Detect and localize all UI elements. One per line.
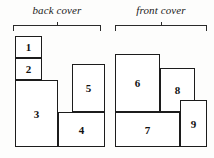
cover-layout-figure: back coverfront cover123546879 [0, 0, 214, 158]
back-cover-bracket-tick-right [100, 25, 101, 31]
back-cover-bracket-tick-mid [57, 22, 58, 26]
front-cover-bracket-tick-left [115, 25, 116, 31]
box-9-number: 9 [181, 118, 206, 130]
box-5: 5 [72, 64, 105, 112]
box-7-number: 7 [116, 124, 179, 136]
box-5-number: 5 [73, 82, 104, 94]
back-cover-bracket-tick-left [13, 25, 14, 31]
back-cover-bracket [13, 25, 101, 32]
box-4: 4 [58, 112, 105, 147]
box-1: 1 [15, 36, 42, 58]
box-9: 9 [180, 100, 207, 147]
box-1-number: 1 [16, 41, 41, 53]
box-7: 7 [115, 112, 180, 147]
front-cover-bracket-tick-right [206, 25, 207, 31]
box-3-number: 3 [16, 108, 57, 120]
box-8-number: 8 [161, 84, 194, 96]
label-back-cover: back cover [13, 4, 101, 16]
front-cover-bracket-tick-mid [161, 22, 162, 26]
box-3: 3 [15, 80, 58, 147]
box-4-number: 4 [59, 124, 104, 136]
label-front-cover: front cover [115, 4, 207, 16]
box-2-number: 2 [16, 63, 41, 75]
front-cover-bracket [115, 25, 207, 32]
box-6-number: 6 [116, 77, 159, 89]
box-6: 6 [115, 54, 160, 112]
box-2: 2 [15, 58, 42, 80]
